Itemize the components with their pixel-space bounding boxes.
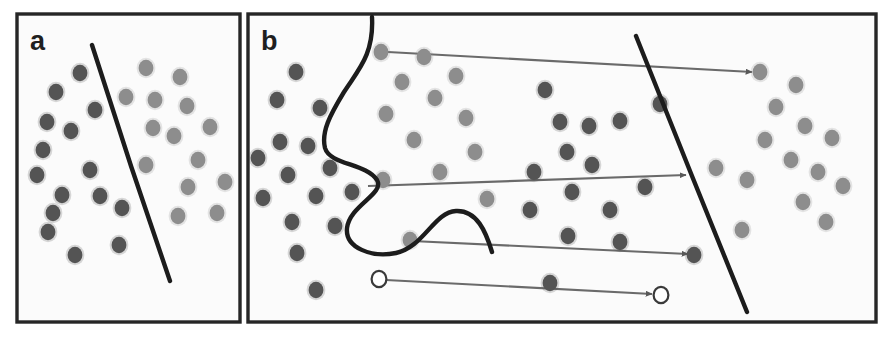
data-point-class-b bbox=[428, 90, 443, 106]
data-point bbox=[707, 158, 726, 178]
panel-frame-b bbox=[248, 14, 876, 322]
data-point bbox=[431, 162, 450, 182]
data-point-class-a bbox=[83, 162, 98, 178]
data-point bbox=[249, 148, 268, 168]
data-point-class-a bbox=[46, 205, 61, 221]
data-point bbox=[137, 58, 156, 78]
data-point-class-a bbox=[251, 150, 266, 166]
data-point-class-a bbox=[93, 188, 108, 204]
data-point bbox=[580, 116, 599, 136]
data-point-class-b bbox=[173, 69, 188, 85]
data-point-class-a bbox=[313, 100, 328, 116]
data-point bbox=[189, 150, 208, 170]
data-point-class-a bbox=[112, 237, 127, 253]
data-point-class-b bbox=[798, 118, 813, 134]
data-point bbox=[525, 162, 544, 182]
data-point-class-b bbox=[784, 152, 799, 168]
data-point bbox=[393, 72, 412, 92]
data-point-class-b bbox=[468, 144, 483, 160]
data-point-class-a bbox=[49, 84, 64, 100]
data-point-class-a bbox=[561, 228, 576, 244]
data-point bbox=[809, 162, 828, 182]
data-point bbox=[137, 155, 156, 175]
data-point bbox=[81, 160, 100, 180]
data-point bbox=[447, 66, 466, 86]
data-point-class-b bbox=[379, 106, 394, 122]
data-point-class-b bbox=[480, 191, 495, 207]
data-point-class-a bbox=[55, 187, 70, 203]
data-point-class-a bbox=[273, 134, 288, 150]
data-point bbox=[254, 188, 273, 208]
data-point-class-b bbox=[753, 64, 768, 80]
data-point-class-a bbox=[281, 167, 296, 183]
data-point-class-a bbox=[40, 114, 55, 130]
data-point-class-a bbox=[613, 234, 628, 250]
data-point bbox=[113, 198, 132, 218]
data-point bbox=[71, 63, 90, 83]
data-point-class-a bbox=[527, 164, 542, 180]
data-point-class-a bbox=[523, 202, 538, 218]
data-point-class-a bbox=[613, 113, 628, 129]
data-point-class-b bbox=[180, 98, 195, 114]
data-point bbox=[53, 185, 72, 205]
data-point-class-a bbox=[687, 247, 702, 263]
data-point bbox=[287, 62, 306, 82]
data-point-class-b bbox=[811, 164, 826, 180]
data-point-class-b bbox=[836, 178, 851, 194]
data-point bbox=[794, 192, 813, 212]
data-point bbox=[34, 140, 53, 160]
data-point-class-b bbox=[148, 92, 163, 108]
data-point bbox=[466, 142, 485, 162]
data-point-class-a bbox=[290, 245, 305, 261]
figure-canvas bbox=[0, 0, 894, 337]
figure-container: a b bbox=[0, 0, 894, 337]
data-point bbox=[751, 62, 770, 82]
data-point-class-a bbox=[582, 118, 597, 134]
data-point-class-b bbox=[407, 132, 422, 148]
data-point-class-b bbox=[210, 205, 225, 221]
data-point bbox=[426, 88, 445, 108]
data-point bbox=[817, 212, 836, 232]
data-point bbox=[601, 200, 620, 220]
panel-b bbox=[248, 14, 876, 322]
data-point-class-a bbox=[560, 144, 575, 160]
data-point bbox=[39, 222, 58, 242]
data-point-class-a bbox=[301, 138, 316, 154]
data-point-class-a bbox=[270, 92, 285, 108]
data-point-class-b bbox=[758, 132, 773, 148]
data-point bbox=[307, 280, 326, 300]
data-point-class-b bbox=[119, 89, 134, 105]
data-point-class-b bbox=[139, 60, 154, 76]
data-point bbox=[796, 116, 815, 136]
data-point bbox=[787, 75, 806, 95]
data-point-hollow bbox=[654, 287, 669, 303]
data-point bbox=[283, 212, 302, 232]
data-point bbox=[583, 155, 602, 175]
data-point bbox=[179, 177, 198, 197]
data-point-class-b bbox=[825, 130, 840, 146]
data-point-hollow bbox=[372, 271, 387, 287]
data-point-class-a bbox=[323, 160, 338, 176]
data-point bbox=[767, 97, 786, 117]
data-point-class-a bbox=[64, 123, 79, 139]
data-point bbox=[823, 128, 842, 148]
data-point bbox=[834, 176, 853, 196]
data-point bbox=[91, 186, 110, 206]
panel-label-a: a bbox=[30, 28, 45, 55]
data-point bbox=[171, 67, 190, 87]
data-point bbox=[38, 112, 57, 132]
data-point-class-b bbox=[146, 120, 161, 136]
data-point-class-a bbox=[638, 179, 653, 195]
data-point-class-b bbox=[218, 174, 233, 190]
data-point-class-b bbox=[789, 77, 804, 93]
data-point bbox=[117, 87, 136, 107]
panel-frame-a bbox=[17, 14, 240, 322]
data-point bbox=[611, 232, 630, 252]
data-point-class-a bbox=[88, 102, 103, 118]
data-point-class-b bbox=[735, 222, 750, 238]
data-point-class-b bbox=[449, 68, 464, 84]
data-point-class-b bbox=[167, 128, 182, 144]
data-point-class-a bbox=[565, 184, 580, 200]
data-point bbox=[559, 226, 578, 246]
data-point bbox=[311, 98, 330, 118]
